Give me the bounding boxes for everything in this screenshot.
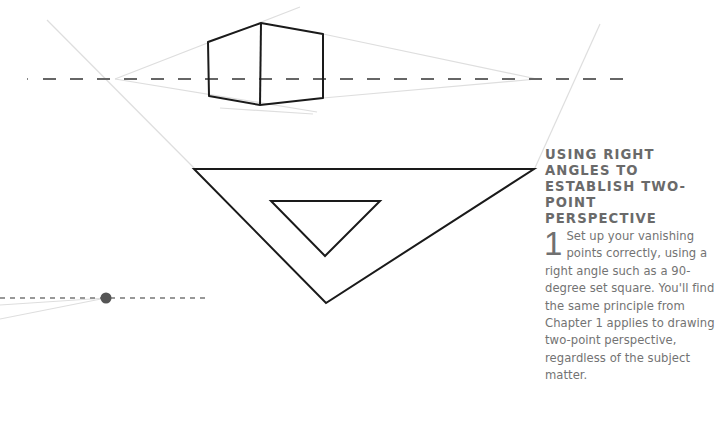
set-square-outer (194, 169, 534, 303)
caption-title-line: ESTABLISH TWO-POINT (545, 179, 725, 211)
step-number: 1 (544, 230, 562, 257)
set-square-inner (271, 201, 380, 256)
box-drawing (208, 23, 323, 105)
caption-text: Set up your vanishing points correctly, … (545, 229, 715, 382)
caption-block: USING RIGHT ANGLES TO ESTABLISH TWO-POIN… (545, 147, 725, 385)
set-square-drawing (194, 169, 534, 303)
caption-title-line: USING RIGHT ANGLES TO (545, 147, 725, 179)
caption-title-line: PERSPECTIVE (545, 211, 725, 227)
caption-body: 1 Set up your vanishing points correctly… (545, 228, 725, 385)
vanishing-point-dot (101, 293, 112, 304)
caption-title: USING RIGHT ANGLES TO ESTABLISH TWO-POIN… (545, 147, 725, 227)
construction-lines (0, 7, 600, 319)
